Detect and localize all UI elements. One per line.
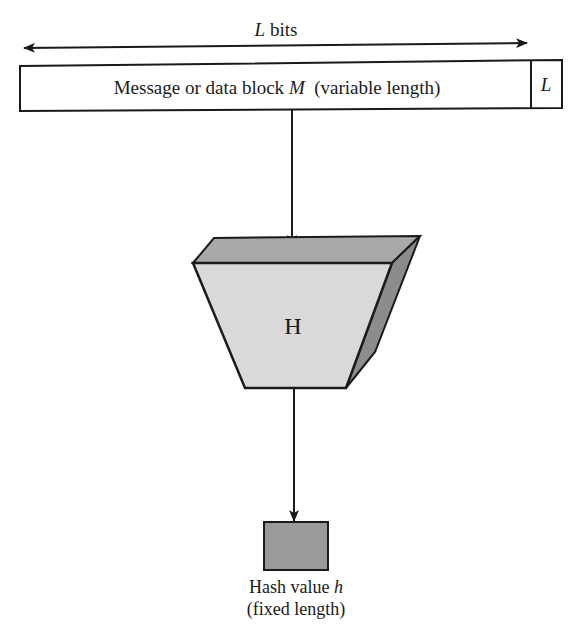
length-field-label: L	[540, 74, 552, 95]
message-block: Message or data block M (variable length…	[20, 60, 562, 111]
hash-value-label: Hash value h	[249, 577, 343, 597]
hash-function-label: H	[284, 313, 301, 339]
length-label: L bits	[254, 19, 298, 40]
hash-value-length-label: (fixed length)	[247, 599, 345, 620]
hash-function-block: H	[193, 236, 420, 388]
length-span-arrow	[24, 43, 527, 48]
hash-value-box	[264, 522, 328, 570]
hash-function-diagram: L bits Message or data block M (variable…	[0, 0, 581, 634]
hash-block-top-face	[193, 236, 420, 263]
message-block-label: Message or data block M (variable length…	[114, 77, 441, 99]
